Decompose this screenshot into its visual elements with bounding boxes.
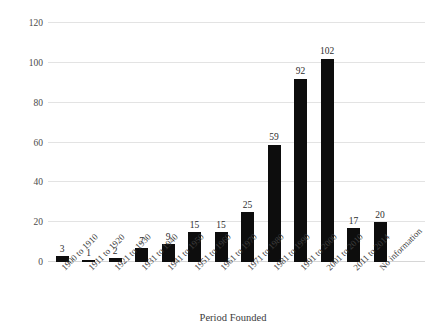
bar-chart-figure: Number of Firms 020406080100120312791515… [0, 0, 435, 334]
x-axis-title: Period Founded [48, 312, 418, 323]
bar-value-label: 20 [375, 211, 385, 221]
gridline-100 [48, 62, 425, 63]
bar-value-label: 92 [296, 67, 306, 77]
plot-area: 0204060801001203127915152559921021720 [48, 23, 425, 262]
bar-value-label: 15 [216, 221, 226, 231]
bar-value-label: 25 [243, 201, 253, 211]
gridline-40 [48, 181, 425, 182]
bar-value-label: 15 [190, 221, 200, 231]
y-tick-label: 0 [38, 257, 43, 267]
gridline-60 [48, 142, 425, 143]
y-tick-label: 80 [34, 98, 44, 108]
gridline-80 [48, 102, 425, 103]
bar-value-label: 102 [320, 47, 334, 57]
bar-value-label: 3 [60, 245, 65, 255]
y-tick-label: 20 [34, 217, 44, 227]
y-tick-label: 40 [34, 177, 44, 187]
gridline-120 [48, 22, 425, 23]
gridline-20 [48, 221, 425, 222]
y-tick-label: 60 [34, 138, 44, 148]
y-tick-label: 100 [29, 58, 43, 68]
bar-value-label: 17 [349, 217, 359, 227]
y-tick-label: 120 [29, 18, 43, 28]
bar-value-label: 59 [269, 133, 279, 143]
